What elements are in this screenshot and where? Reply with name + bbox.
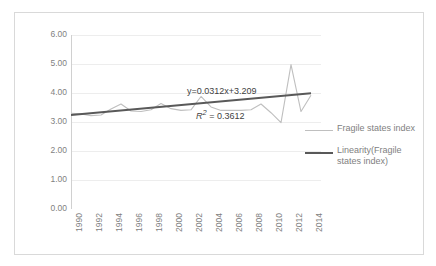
- y-axis-tick-label: 1.00: [50, 175, 67, 184]
- y-axis-tick-labels: 6.005.004.003.002.001.000.00: [15, 13, 71, 256]
- x-axis-tick-label: 1990: [75, 213, 84, 232]
- gridlines: [71, 36, 321, 210]
- x-axis-tick-label: 2010: [275, 213, 284, 232]
- x-axis-tick-label: 2006: [235, 213, 244, 232]
- x-axis-tick-label: 2012: [295, 213, 304, 232]
- x-axis-tick-label: 1998: [155, 213, 164, 232]
- chart-screenshot: 6.005.004.003.002.001.000.00 19901992199…: [0, 0, 436, 266]
- y-axis-tick-label: 3.00: [50, 117, 67, 126]
- legend-label-series: Fragile states index: [337, 123, 415, 134]
- x-axis-tick-label: 1992: [95, 213, 104, 232]
- r-squared-label: R2 = 0.3612: [196, 108, 244, 121]
- chart-legend: Fragile states index Linearity(Fragile s…: [305, 123, 430, 176]
- x-axis-tick-label: 2002: [195, 213, 204, 232]
- chart-frame: 6.005.004.003.002.001.000.00 19901992199…: [14, 12, 424, 255]
- x-axis-tick-label: 1994: [115, 213, 124, 232]
- y-axis-tick-label: 6.00: [50, 30, 67, 39]
- r-squared-value: = 0.3612: [207, 111, 245, 121]
- legend-item-trendline[interactable]: Linearity(Fragile states index): [305, 145, 430, 167]
- trendline-equation-label: y=0.0312x+3.209: [187, 86, 257, 96]
- legend-label-trendline: Linearity(Fragile states index): [337, 145, 427, 167]
- x-axis-tick-label: 2008: [255, 213, 264, 232]
- trendline-linearity: [71, 93, 311, 115]
- y-axis-tick-label: 4.00: [50, 88, 67, 97]
- y-axis-tick-label: 5.00: [50, 59, 67, 68]
- y-axis-tick-label: 2.00: [50, 146, 67, 155]
- chart-svg: [71, 35, 321, 209]
- x-axis-tick-label: 2000: [175, 213, 184, 232]
- y-axis-tick-label: 0.00: [50, 204, 67, 213]
- legend-item-series[interactable]: Fragile states index: [305, 123, 430, 136]
- legend-swatch-trendline-icon: [305, 148, 333, 158]
- legend-swatch-line-icon: [305, 126, 333, 136]
- x-axis-tick-label: 2014: [315, 213, 324, 232]
- x-axis-tick-label: 2004: [215, 213, 224, 232]
- x-axis-tick-label: 1996: [135, 213, 144, 232]
- x-axis-tick-labels: 1990199219941996199820002002200420062008…: [71, 211, 321, 257]
- plot-area: [71, 35, 321, 209]
